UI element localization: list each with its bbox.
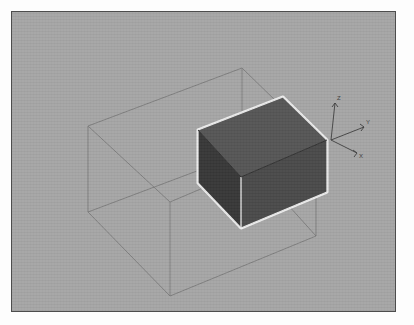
- z-axis-label: Z: [337, 95, 341, 101]
- y-axis-line: [331, 127, 364, 140]
- x-axis-label: X: [359, 153, 363, 159]
- z-axis-line: [331, 103, 335, 140]
- 3d-scene[interactable]: Z Y X: [12, 12, 395, 311]
- axis-labels: Z Y X: [337, 95, 370, 159]
- axis-triad[interactable]: [331, 103, 364, 157]
- solid-cuboid[interactable]: [198, 97, 327, 228]
- x-axis-line: [331, 140, 357, 153]
- viewport-root: Z Y X: [0, 0, 414, 325]
- 3d-render-panel[interactable]: Z Y X: [11, 11, 396, 312]
- y-axis-label: Y: [366, 119, 370, 125]
